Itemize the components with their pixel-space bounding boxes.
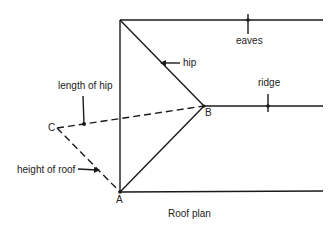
length-of-hip-leader bbox=[83, 96, 84, 124]
point-c-label: C bbox=[48, 123, 55, 133]
eaves-marker-dot bbox=[246, 18, 250, 22]
hip-label: hip bbox=[183, 58, 196, 68]
diagram-title: Roof plan bbox=[168, 209, 211, 219]
roof-plan-drawing bbox=[0, 0, 336, 232]
eaves-label: eaves bbox=[236, 36, 263, 46]
bottom-eave-line bbox=[120, 191, 323, 192]
hip-line-bottom bbox=[120, 106, 204, 192]
ridge-label: ridge bbox=[258, 78, 280, 88]
point-a-label: A bbox=[116, 195, 123, 205]
length-of-hip-marker-dot bbox=[82, 122, 86, 126]
length-of-hip-dashed-line bbox=[57, 106, 204, 128]
height-of-roof-label: height of roof bbox=[17, 165, 75, 175]
ridge-marker-dot bbox=[266, 104, 270, 108]
length-of-hip-label: length of hip bbox=[58, 81, 113, 91]
point-b-label: B bbox=[205, 108, 212, 118]
height-of-roof-dashed-line bbox=[57, 128, 120, 192]
